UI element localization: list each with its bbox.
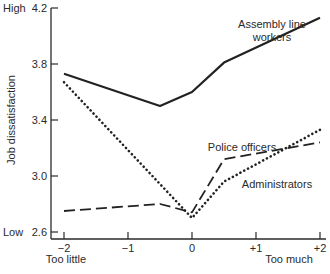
y-low-label: Low [3, 226, 23, 238]
y-tick-label: 2.6 [32, 226, 47, 238]
y-tick-label: 3.4 [32, 114, 47, 126]
series-label: workers [252, 31, 292, 43]
x-tick-label: 0 [189, 242, 195, 254]
x-tick-label: −1 [122, 242, 135, 254]
x-tick-label: +1 [250, 242, 263, 254]
series-labels: Assembly lineworkersPolice officersAdmin… [208, 18, 313, 190]
y-tick-label: 3.0 [32, 170, 47, 182]
y-high-label: High [3, 2, 26, 14]
y-tick-label: 3.8 [32, 58, 47, 70]
x-left-label: Too little [46, 253, 86, 265]
series-label: Administrators [242, 178, 313, 190]
series-label: Police officers [208, 141, 277, 153]
y-tick-label: 4.2 [32, 2, 47, 14]
y-axis-title: Job dissatisfaction [5, 75, 17, 165]
series-label: Assembly line [238, 18, 306, 30]
x-right-label: Too much [265, 253, 313, 265]
series-line-administrators [64, 82, 320, 218]
x-tick-label: +2 [314, 242, 327, 254]
line-chart: 4.23.83.43.02.6HighLowJob dissatisfactio… [0, 0, 330, 274]
